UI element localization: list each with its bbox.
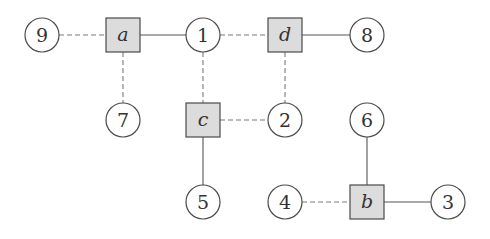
factor-node-label: a [117, 23, 128, 45]
variable-node-label: 5 [197, 191, 209, 213]
factor-node-label: b [361, 190, 373, 212]
variable-node-7: 7 [106, 103, 140, 137]
variable-node-label: 1 [197, 24, 209, 46]
variable-node-5: 5 [186, 185, 220, 219]
factor-node-label: d [279, 23, 291, 45]
variable-node-8: 8 [350, 18, 384, 52]
graph-canvas: 918726543adcb [0, 0, 490, 239]
factor-graph-diagram: 918726543adcb [0, 0, 490, 239]
factor-node-b: b [350, 185, 384, 219]
variable-node-9: 9 [25, 18, 59, 52]
variable-node-label: 6 [361, 109, 373, 131]
variable-node-label: 7 [117, 109, 129, 131]
variable-node-1: 1 [186, 18, 220, 52]
nodes-layer: 918726543adcb [25, 18, 465, 219]
factor-node-c: c [186, 103, 220, 137]
factor-node-d: d [268, 18, 302, 52]
variable-node-6: 6 [350, 103, 384, 137]
variable-node-label: 4 [279, 191, 291, 213]
variable-node-2: 2 [268, 103, 302, 137]
variable-node-label: 3 [442, 191, 454, 213]
factor-node-label: c [198, 108, 209, 130]
variable-node-3: 3 [431, 185, 465, 219]
variable-node-label: 8 [361, 24, 373, 46]
variable-node-label: 9 [36, 24, 48, 46]
variable-node-4: 4 [268, 185, 302, 219]
variable-node-label: 2 [279, 109, 291, 131]
factor-node-a: a [106, 18, 140, 52]
